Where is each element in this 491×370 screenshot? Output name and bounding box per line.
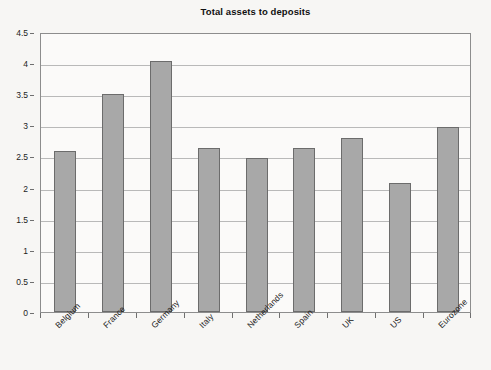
bar[interactable]: [389, 183, 411, 312]
y-tick-label: 2: [23, 184, 28, 194]
chart-title: Total assets to deposits: [40, 6, 471, 17]
plot-area: [40, 33, 471, 313]
y-tick-label: 4.5: [16, 28, 28, 38]
x-axis-label-us: US: [388, 315, 404, 331]
bar[interactable]: [246, 158, 268, 312]
bar[interactable]: [293, 148, 315, 312]
y-tick-label: 0.5: [16, 277, 28, 287]
y-tick-label: 2.5: [16, 152, 28, 162]
y-tick-label: 1.5: [16, 215, 28, 225]
y-tick-mark: [30, 251, 34, 252]
y-tick-mark: [30, 126, 34, 127]
y-tick-mark: [30, 64, 34, 65]
y-tick-mark: [30, 95, 34, 96]
x-axis-label-italy: Italy: [197, 312, 215, 330]
x-axis-labels: BelgiumFranceGermanyItalyNetherlandsSpai…: [0, 313, 491, 370]
bar[interactable]: [102, 94, 124, 312]
x-axis-label-uk: UK: [340, 315, 356, 331]
y-tick-mark: [30, 220, 34, 221]
bar[interactable]: [54, 151, 76, 312]
y-tick-mark: [30, 282, 34, 283]
bar-chart: Total assets to deposits 00.511.522.533.…: [0, 0, 491, 370]
y-axis: 00.511.522.533.544.5: [0, 33, 34, 313]
gridline: [41, 65, 470, 66]
bar[interactable]: [150, 61, 172, 312]
y-tick-mark: [30, 189, 34, 190]
bar[interactable]: [198, 148, 220, 312]
y-tick-mark: [30, 157, 34, 158]
y-tick-mark: [30, 33, 34, 34]
y-tick-label: 4: [23, 59, 28, 69]
bar[interactable]: [341, 138, 363, 312]
y-tick-label: 1: [23, 246, 28, 256]
y-tick-label: 3: [23, 121, 28, 131]
bar[interactable]: [437, 127, 459, 312]
y-tick-label: 3.5: [16, 90, 28, 100]
